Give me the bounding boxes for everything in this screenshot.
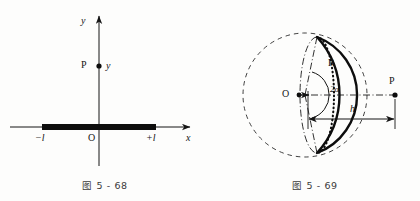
cone-lower-edge <box>305 95 317 153</box>
figure-5-68-drawing <box>0 0 210 175</box>
figure-page: y x O P y −l +l 图 5 - 68 <box>0 0 420 201</box>
radius-line <box>305 37 317 95</box>
height-label: h <box>350 104 355 114</box>
rod-left-end-label: −l <box>35 133 45 143</box>
center-o-label: O <box>282 89 289 99</box>
radius-label: R <box>328 58 335 68</box>
figure-5-68: y x O P y −l +l 图 5 - 68 <box>0 0 210 201</box>
point-p-marker <box>392 92 397 97</box>
figure-5-68-caption: 图 5 - 68 <box>0 178 210 192</box>
y-axis-label: y <box>81 16 85 26</box>
point-p-marker <box>96 63 101 68</box>
figure-5-69-drawing <box>210 0 420 175</box>
half-angle-label: 2α <box>330 85 339 94</box>
figure-5-69: O R 2α h P 图 5 - 69 <box>210 0 420 201</box>
point-p-coordinate-label: y <box>106 61 110 71</box>
figure-5-69-caption: 图 5 - 69 <box>210 178 420 192</box>
point-p-label: P <box>389 76 395 86</box>
rod-right-end-label: +l <box>146 133 156 143</box>
point-p-label: P <box>81 60 87 70</box>
origin-label: O <box>88 133 95 143</box>
x-axis-label: x <box>186 133 190 143</box>
